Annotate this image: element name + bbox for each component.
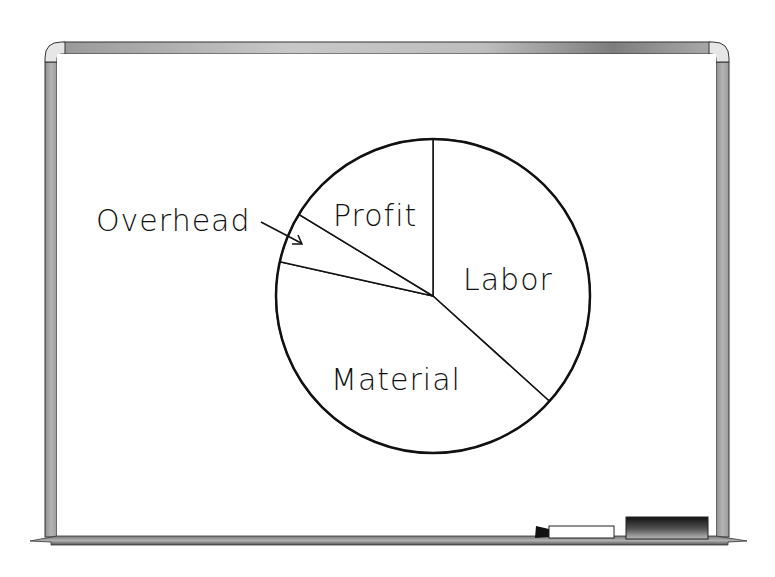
eraser[interactable] xyxy=(626,517,708,539)
slice-label-labor: Labor xyxy=(463,262,553,297)
whiteboard-scene: Profit Labor Material Overhead xyxy=(0,0,775,577)
slice-label-material: Material xyxy=(331,362,461,397)
marker-body xyxy=(549,526,614,538)
frame-right-post xyxy=(716,62,729,537)
frame-left-post xyxy=(45,62,57,537)
slice-label-profit: Profit xyxy=(333,198,417,233)
callout-label-overhead: Overhead xyxy=(96,203,251,238)
frame-top-rail xyxy=(64,42,710,54)
